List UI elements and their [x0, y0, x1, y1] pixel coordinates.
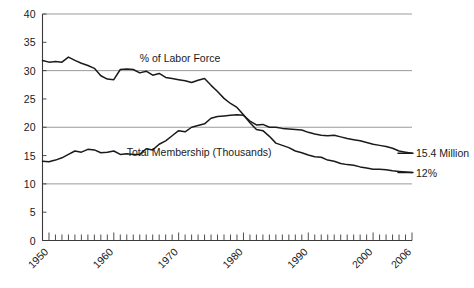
y-tick-label-30: 30: [24, 65, 36, 77]
y-tick-label-15: 15: [24, 150, 36, 162]
x-tick-label-2006: 2006: [388, 245, 413, 270]
x-tick-labels-group: 1950196019701980199020002006: [25, 245, 413, 270]
y-tick-labels-group: 0510152025303540: [24, 8, 47, 247]
x-tick-label-1960: 1960: [90, 245, 115, 270]
y-tick-label-10: 10: [24, 178, 36, 190]
labor-force-annotation: % of Labor Force: [140, 52, 221, 64]
y-tick-label-20: 20: [24, 121, 36, 133]
x-tick-label-1990: 1990: [285, 245, 310, 270]
y-tick-label-25: 25: [24, 93, 36, 105]
chart-canvas: 0510152025303540 19501960197019801990200…: [0, 0, 474, 288]
x-tick-marks-group: [43, 233, 413, 241]
y-tick-label-0: 0: [30, 235, 36, 247]
membership-annotation: Total Membership (Thousands): [127, 146, 272, 158]
union-membership-chart: 0510152025303540 19501960197019801990200…: [0, 0, 474, 288]
y-tick-label-35: 35: [24, 36, 36, 48]
x-tick-label-1980: 1980: [220, 245, 245, 270]
labor-force-end-label: 12%: [416, 167, 437, 179]
x-tick-label-1970: 1970: [155, 245, 180, 270]
y-tick-label-5: 5: [30, 206, 36, 218]
gridlines-group: [43, 14, 413, 184]
x-tick-label-2000: 2000: [350, 245, 375, 270]
y-tick-label-40: 40: [24, 8, 36, 20]
x-tick-label-1950: 1950: [25, 245, 50, 270]
membership-end-label: 15.4 Million: [416, 147, 469, 159]
